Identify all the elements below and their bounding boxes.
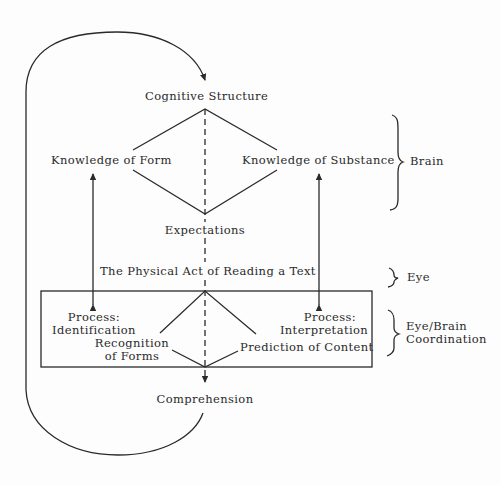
lower-diamond-top [160,291,256,334]
node-comprehension: Comprehension [150,393,260,406]
diagram-lines [0,0,501,485]
bracket-label-eye: Eye [407,271,430,284]
eye-brain-brace [387,310,399,356]
feedback-loop-top-arrow [26,32,205,92]
node-recognition-of-forms-line2: of Forms [92,350,172,363]
node-expectations: Expectations [155,224,255,237]
node-knowledge-of-substance: Knowledge of Substance [242,154,395,167]
eye-brace [388,268,398,287]
node-physical-act: The Physical Act of Reading a Text [100,265,310,278]
bracket-label-eye-brain-line2: Coordination [406,333,487,346]
node-process-interpretation: Interpretation [276,324,372,337]
node-cognitive-structure: Cognitive Structure [145,90,265,103]
bracket-label-brain: Brain [410,155,444,168]
reading-process-diagram: Cognitive Structure Knowledge of Form Kn… [0,0,501,485]
node-knowledge-of-form: Knowledge of Form [51,154,172,167]
node-prediction-of-content: Prediction of Content [240,341,374,354]
